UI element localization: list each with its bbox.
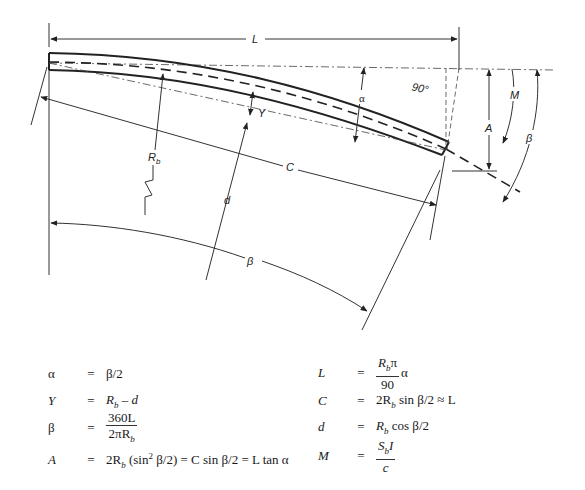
C-dimension-right <box>298 170 436 205</box>
equation-M: M = SbI c <box>318 438 395 475</box>
alpha-label: α <box>359 92 365 104</box>
alpha-arrow <box>355 68 364 142</box>
perpendicular-dashed-2 <box>447 68 459 150</box>
beta-label-right: β <box>525 132 533 144</box>
Y-label: Y <box>258 107 266 119</box>
equation-beta: β = 360L 2πRb <box>48 410 137 447</box>
M-label: M <box>510 89 520 101</box>
A-label: A <box>484 122 492 134</box>
Rb-break-symbol <box>145 165 153 215</box>
d-label: d <box>224 194 231 206</box>
beta-label-bottom: β <box>246 255 254 267</box>
equation-C: C = 2Rb sin β/2 ≈ L <box>318 392 456 410</box>
M-arc <box>503 69 514 143</box>
pipe-bend-diagram: L 90° C Rb Y d α A M β β <box>0 0 585 330</box>
radial-end-line-1 <box>430 156 445 240</box>
Rb-label: Rb <box>148 151 161 166</box>
C-dimension-left <box>41 97 283 166</box>
ninety-degree-label: 90° <box>411 80 430 95</box>
equation-Y: Y = Rb – d <box>48 392 138 410</box>
equation-d: d = Rb cos β/2 <box>318 418 429 436</box>
pipe-top-edge <box>49 53 449 142</box>
beta-arc-bottom-right <box>262 261 367 311</box>
equation-L: L = Rbπ 90 α <box>318 355 408 392</box>
horizontal-reference <box>49 63 555 70</box>
equation-alpha: α = β/2 <box>48 366 123 382</box>
radial-end-line-2 <box>362 170 440 330</box>
C-label: C <box>286 161 294 173</box>
radial-start-line <box>31 67 47 125</box>
L-label: L <box>252 33 258 45</box>
equation-A: A = 2Rb (sin2 β/2) = C sin β/2 = L tan α <box>48 451 289 470</box>
Rb-arrow <box>155 74 163 150</box>
